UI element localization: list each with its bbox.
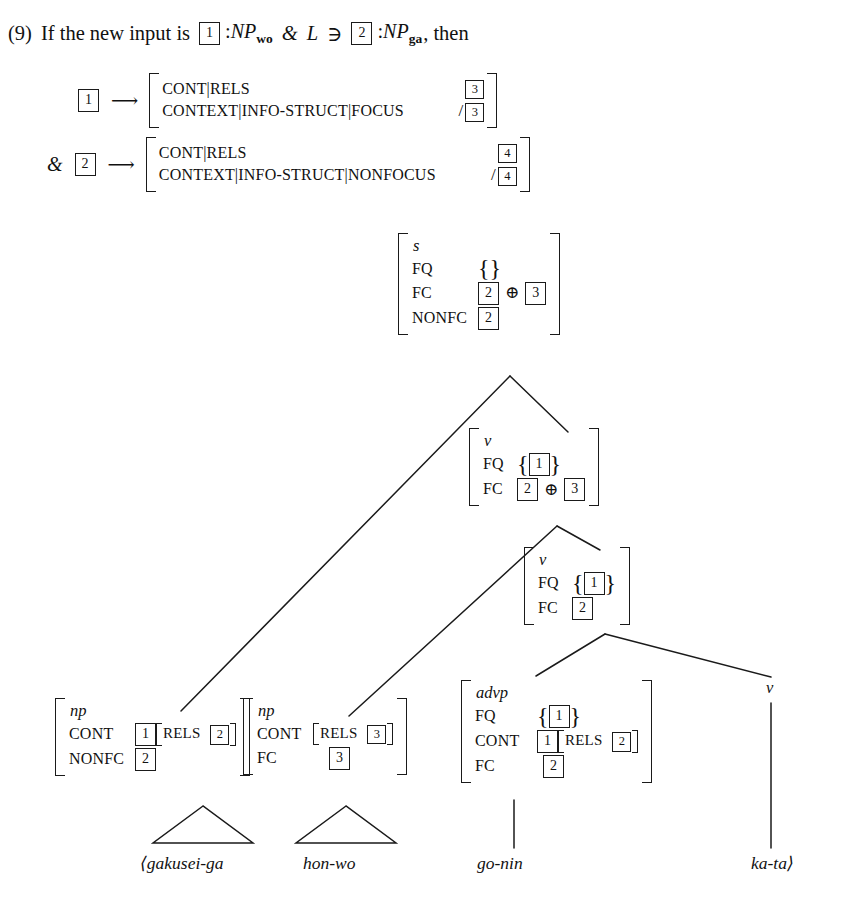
tree-leaf-np1: np CONT 1 RELS 2 NONFC 2 [55,698,250,776]
value-tag: 2 [478,307,499,330]
edge-v2-to-v3 [605,634,771,677]
feature-name: NONFC [412,309,478,327]
feature-row-fq: FQ { 1 } [483,453,585,476]
brace-open: { [517,454,529,476]
value-tag: 1 [584,572,605,595]
node-type: v [539,551,616,570]
node-type: np [258,702,393,721]
edge-v2-to-advp [536,634,605,676]
statement-suffix: , then [423,22,469,45]
brace-close: } [490,258,502,280]
brace-open: { [478,258,490,280]
slash-symbol: / [459,101,466,120]
language-L: L [307,22,318,45]
node-type: np [70,702,236,721]
triangle-gakusei [153,806,253,843]
feature-name: FQ [538,574,572,592]
feature-name: FQ [483,455,517,473]
tree-leaf-np2: np CONT RELS 3 FC 3 [243,698,407,775]
feature-row-nonfc: NONFC 2 [69,748,236,771]
terminal-go-nin: go-nin [477,853,523,874]
value-tag: 1 [135,723,156,746]
feature-row-nonfc: NONFC 2 [412,307,546,330]
value-tag: 1 [529,453,550,476]
value-tag: 2 [543,755,564,778]
value-tag: 2 [478,282,499,305]
feature-row-cont: CONT 1 RELS 2 [475,730,638,753]
np-wo: :NPwo [225,20,273,47]
inner-value-tag: 2 [210,725,229,745]
feature-value: /3 [459,101,485,122]
node-type: s [413,237,546,256]
value-tag: 3 [329,747,350,770]
tree-node-v1: v FQ { 1 } FC 2 ⊕ 3 [469,428,599,506]
member-symbol: ∋ [327,22,342,46]
feature-value: /4 [491,165,517,186]
feature-row-fc: FC 2 [475,755,638,778]
value-tag: 3 [525,282,546,305]
node-type: v [484,432,585,451]
tree-node-root-s: s FQ { } FC 2 ⊕ 3 NONFC 2 [398,233,560,335]
value-tag: 2 [572,597,593,620]
oplus-symbol: ⊕ [499,283,525,303]
oplus-symbol: ⊕ [538,480,564,500]
feature-name: FQ [412,260,478,278]
inner-avm: RELS 3 [313,723,393,745]
brace-close: } [570,706,582,728]
feature-value: 4 [498,143,517,163]
inner-feature-name: RELS [565,732,602,748]
conjunction-amp: & [282,22,298,45]
rule-1-avm: CONT|RELS 3 CONTEXT|INFO-STRUCT|FOCUS /3 [149,73,497,128]
rule-2-lhs-tag: 2 [75,153,96,176]
value-tag: 3 [564,478,585,501]
feature-row-fq: FQ { } [412,258,546,280]
statement-prefix: If the new input is [41,22,190,45]
inner-avm: RELS 2 [558,730,638,752]
feature-row-fq: FQ { 1 } [475,705,638,728]
tag-2: 2 [351,22,372,45]
feature-row-cont: CONT 1 RELS 2 [69,723,236,746]
terminal-ka-ta: ka-ta⟩ [751,853,794,874]
slash-symbol: / [491,165,498,184]
inner-value-tag: 2 [612,732,631,752]
inner-feature-name: RELS [163,725,200,741]
brace-close: } [550,454,562,476]
tree-node-v2: v FQ { 1 } FC 2 [524,547,630,625]
rule-2-arrow: ⟶ [108,153,134,176]
feature-value: 3 [465,79,484,99]
rule-2-feature-row: CONT|RELS 4 [159,143,517,163]
feature-name: FC [257,749,313,767]
brace-close: } [605,573,617,595]
feature-row-cont: CONT RELS 3 [257,723,393,745]
feature-name: CONT [257,725,313,743]
value-tag: 1 [549,705,570,728]
feature-row-fc: FC 2 ⊕ 3 [483,478,585,501]
edge-root-to-v1 [510,376,568,432]
rule-1-feature-row: CONT|RELS 3 [162,79,484,99]
feature-name: FQ [475,707,537,725]
np-ga: :NPga [377,20,422,47]
inner-feature-name: RELS [320,725,357,741]
feature-name: CONT|RELS [159,144,247,162]
example-number: (9) [8,22,32,45]
rule-1-arrow: ⟶ [111,89,137,112]
feature-name: FC [412,284,478,302]
rule-2-prefix: & [47,153,63,176]
feature-row-fq: FQ { 1 } [538,572,616,595]
rule-2-avm: CONT|RELS 4 CONTEXT|INFO-STRUCT|NONFOCUS… [146,137,530,192]
feature-row-fc: FC 2 [538,597,616,620]
brace-open: { [572,573,584,595]
feature-name: FC [475,757,537,775]
terminal-hon-wo: hon-wo [303,853,356,874]
tree-leaf-advp: advp FQ { 1 } CONT 1 RELS 2 FC 2 [461,680,652,783]
inner-value-tag: 3 [367,725,386,745]
brace-open: { [537,706,549,728]
rule-2: & 2 ⟶ CONT|RELS 4 CONTEXT|INFO-STRUCT|NO… [47,137,530,192]
feature-name: CONT|RELS [162,80,250,98]
rule-1-lhs-tag: 1 [78,89,99,112]
inner-avm: RELS 2 [156,723,236,745]
edge-root-to-np1 [181,376,510,711]
feature-name: FC [538,599,572,617]
feature-row-fc: FC 2 ⊕ 3 [412,282,546,305]
feature-name: CONT [475,732,537,750]
